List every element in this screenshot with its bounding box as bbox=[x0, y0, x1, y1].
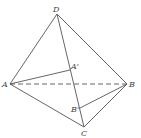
label-C: C bbox=[81, 129, 87, 138]
edge-DB bbox=[57, 14, 127, 84]
edge-AA1 bbox=[10, 70, 70, 84]
label-D: D bbox=[52, 5, 60, 14]
label-A: A bbox=[1, 80, 8, 89]
label-B-prime: B' bbox=[70, 105, 79, 114]
edge-BC bbox=[84, 84, 127, 127]
label-B: B bbox=[128, 80, 135, 89]
edge-BB1 bbox=[80, 84, 127, 108]
tetrahedron-diagram: D A B C A' B' bbox=[0, 0, 141, 138]
label-A-prime: A' bbox=[70, 62, 79, 71]
edge-DA bbox=[10, 14, 57, 84]
